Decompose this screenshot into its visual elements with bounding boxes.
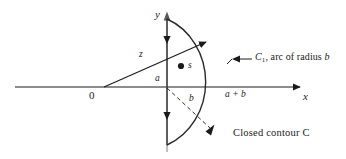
- arc-annotation-text: , arc of radius: [265, 51, 321, 62]
- label-z: z: [139, 50, 143, 60]
- contour-arc-c1: [167, 19, 206, 145]
- c1-leader-tail: [227, 59, 232, 64]
- y-axis-label: y: [155, 9, 160, 20]
- arc-annotation-c: C: [255, 51, 262, 62]
- arc-direction-arrow: [206, 125, 215, 136]
- label-s: s: [188, 61, 192, 71]
- contour-diagram-figure: y x 0 a b z s a + b C1, arc of radius b …: [0, 0, 346, 159]
- label-b: b: [189, 94, 194, 104]
- label-a: a: [155, 74, 160, 84]
- point-s-marker: [178, 63, 184, 69]
- arc-annotation: C1, arc of radius b: [255, 52, 330, 64]
- contour-direction-arrow-lower: [163, 112, 170, 120]
- arc-annotation-radius: b: [324, 51, 329, 62]
- contour-direction-arrow-upper: [163, 36, 170, 44]
- label-a-plus-b: a + b: [225, 90, 246, 100]
- x-axis-label: x: [303, 91, 308, 102]
- c1-leader-arrowhead: [232, 56, 240, 63]
- origin-label: 0: [89, 90, 95, 101]
- closed-contour-caption: Closed contour C: [233, 128, 310, 139]
